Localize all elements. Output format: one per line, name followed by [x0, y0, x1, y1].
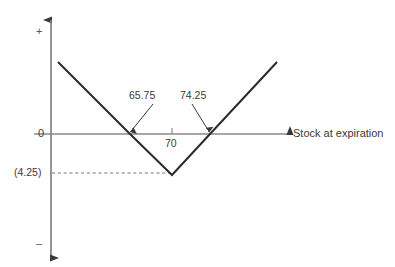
x-axis-title: Stock at expiration [293, 128, 384, 139]
y-axis-negative-marker: – [36, 238, 42, 249]
payoff-diagram-canvas: + – 0 (4.25) 70 65.75 74.25 Stock at exp… [0, 0, 395, 267]
payoff-line [58, 62, 277, 175]
lower-breakeven-leader-arrow [132, 104, 153, 130]
x-axis-tick-label-70: 70 [165, 138, 177, 149]
lower-breakeven-annotation: 65.75 [129, 90, 155, 101]
upper-breakeven-annotation: 74.25 [180, 90, 206, 101]
y-axis-zero-label: 0 [38, 128, 44, 139]
upper-breakeven-leader-arrow [192, 104, 208, 130]
y-axis-positive-marker: + [36, 26, 42, 37]
max-loss-label: (4.25) [14, 167, 41, 178]
